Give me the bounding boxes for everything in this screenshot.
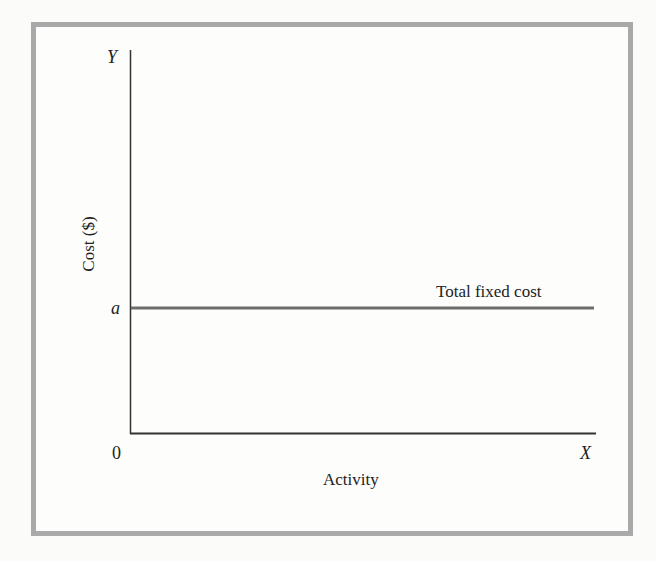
cost-axis-title: Cost ($) xyxy=(80,216,97,271)
origin-label: 0 xyxy=(112,444,121,462)
y-axis-label: Y xyxy=(107,48,117,66)
x-axis-label: X xyxy=(580,444,591,462)
series-label-total-fixed-cost: Total fixed cost xyxy=(436,283,542,300)
a-tick-label: a xyxy=(111,299,120,317)
activity-axis-title: Activity xyxy=(323,471,379,488)
